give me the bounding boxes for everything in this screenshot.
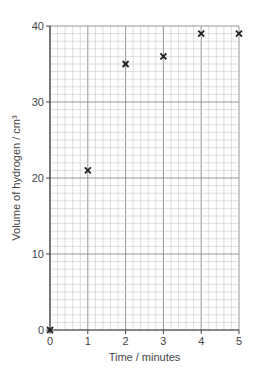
y-axis-label: Volume of hydrogen / cm³ xyxy=(10,115,22,241)
y-tick-label: 30 xyxy=(32,96,44,108)
hydrogen-volume-chart: 012345 010203040 Time / minutes Volume o… xyxy=(0,0,255,380)
y-tick-label: 10 xyxy=(32,248,44,260)
y-tick-label: 20 xyxy=(32,172,44,184)
y-tick-label: 40 xyxy=(32,20,44,32)
x-axis-ticks: 012345 xyxy=(47,330,242,347)
data-points xyxy=(47,31,242,333)
x-tick-label: 5 xyxy=(236,335,242,347)
x-tick-label: 3 xyxy=(160,335,166,347)
x-tick-label: 4 xyxy=(198,335,204,347)
x-tick-label: 1 xyxy=(85,335,91,347)
x-axis-label: Time / minutes xyxy=(109,351,181,363)
grid xyxy=(50,26,239,330)
y-tick-label: 0 xyxy=(38,324,44,336)
y-axis-ticks: 010203040 xyxy=(32,20,50,336)
x-tick-label: 0 xyxy=(47,335,53,347)
x-tick-label: 2 xyxy=(123,335,129,347)
